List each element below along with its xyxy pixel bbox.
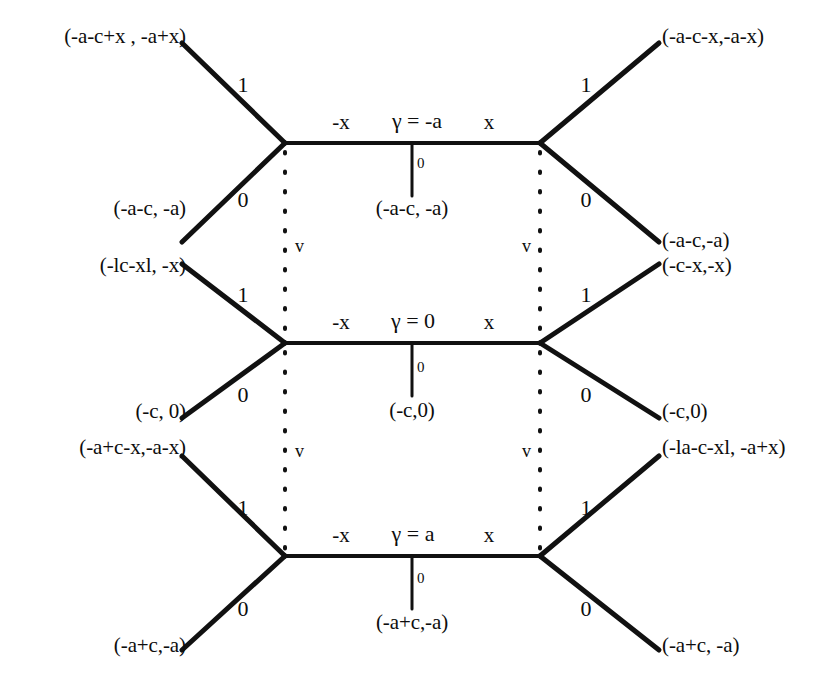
spine-label-middle-left: -x	[332, 312, 350, 333]
weight-top-lower-right: 0	[581, 189, 592, 211]
stub-weight-middle: 0	[417, 360, 425, 375]
endpoint-bottom-lower-left: (-a+c,-a)	[114, 635, 186, 656]
endpoint-top-lower-right: (-a-c,-a)	[662, 230, 729, 251]
vertical-marker-left-lower: v	[295, 442, 304, 460]
leg-top-lower-right	[540, 143, 659, 242]
weight-middle-lower-left: 0	[238, 384, 249, 406]
weight-middle-upper-right: 1	[581, 284, 592, 306]
leg-bottom-upper-left	[182, 456, 285, 556]
diagram-canvas: (-a-c+x , -a+x) 1 (-a-c, -a) 0 -x γ = -a…	[0, 0, 820, 691]
leg-middle-lower-left	[182, 343, 285, 418]
leg-top-lower-left	[182, 143, 285, 242]
gamma-label-bottom: γ = a	[392, 523, 435, 545]
weight-middle-upper-left: 1	[238, 284, 249, 306]
spine-label-top-right: x	[484, 112, 495, 133]
leg-top-upper-left	[182, 43, 285, 143]
stub-endpoint-bottom: (-a+c,-a)	[376, 612, 448, 633]
leg-middle-lower-right	[540, 343, 659, 418]
leg-bottom-lower-right	[540, 556, 659, 650]
spine-label-bottom-left: -x	[332, 525, 350, 546]
leg-bottom-lower-left	[182, 556, 285, 650]
weight-top-upper-left: 1	[238, 74, 249, 96]
spine-label-middle-right: x	[484, 312, 495, 333]
endpoint-top-lower-left: (-a-c, -a)	[114, 198, 186, 219]
spine-label-bottom-right: x	[484, 525, 495, 546]
endpoint-middle-upper-right: (-c-x,-x)	[662, 255, 732, 276]
weight-middle-lower-right: 0	[581, 384, 592, 406]
leg-middle-upper-right	[540, 264, 659, 343]
endpoint-middle-upper-left: (-lc-xl, -x)	[100, 255, 186, 276]
gamma-label-middle: γ = 0	[391, 310, 435, 332]
stub-endpoint-middle: (-c,0)	[389, 400, 434, 421]
endpoint-bottom-upper-right: (-la-c-xl, -a+x)	[662, 437, 785, 458]
stub-weight-top: 0	[417, 156, 425, 171]
weight-bottom-upper-left: 1	[238, 497, 249, 519]
endpoint-top-upper-left: (-a-c+x , -a+x)	[64, 26, 186, 47]
leg-bottom-upper-right	[540, 456, 659, 556]
stub-weight-bottom: 0	[417, 571, 425, 586]
endpoint-bottom-upper-left: (-a+c-x,-a-x)	[79, 437, 186, 458]
diagram-lines	[0, 0, 820, 691]
weight-bottom-upper-right: 1	[581, 497, 592, 519]
vertical-marker-left-upper: v	[295, 237, 304, 255]
spine-label-top-left: -x	[332, 112, 350, 133]
vertical-marker-right-upper: v	[522, 237, 531, 255]
endpoint-middle-lower-left: (-c, 0)	[135, 401, 186, 422]
weight-bottom-lower-right: 0	[581, 598, 592, 620]
weight-top-lower-left: 0	[238, 189, 249, 211]
vertical-marker-right-lower: v	[522, 442, 531, 460]
stub-endpoint-top: (-a-c, -a)	[376, 198, 448, 219]
endpoint-bottom-lower-right: (-a+c, -a)	[662, 635, 739, 656]
weight-bottom-lower-left: 0	[238, 598, 249, 620]
endpoint-top-upper-right: (-a-c-x,-a-x)	[662, 26, 764, 47]
gamma-label-top: γ = -a	[392, 110, 442, 132]
weight-top-upper-right: 1	[581, 74, 592, 96]
leg-middle-upper-left	[182, 264, 285, 343]
endpoint-middle-lower-right: (-c,0)	[662, 401, 707, 422]
leg-top-upper-right	[540, 43, 659, 143]
